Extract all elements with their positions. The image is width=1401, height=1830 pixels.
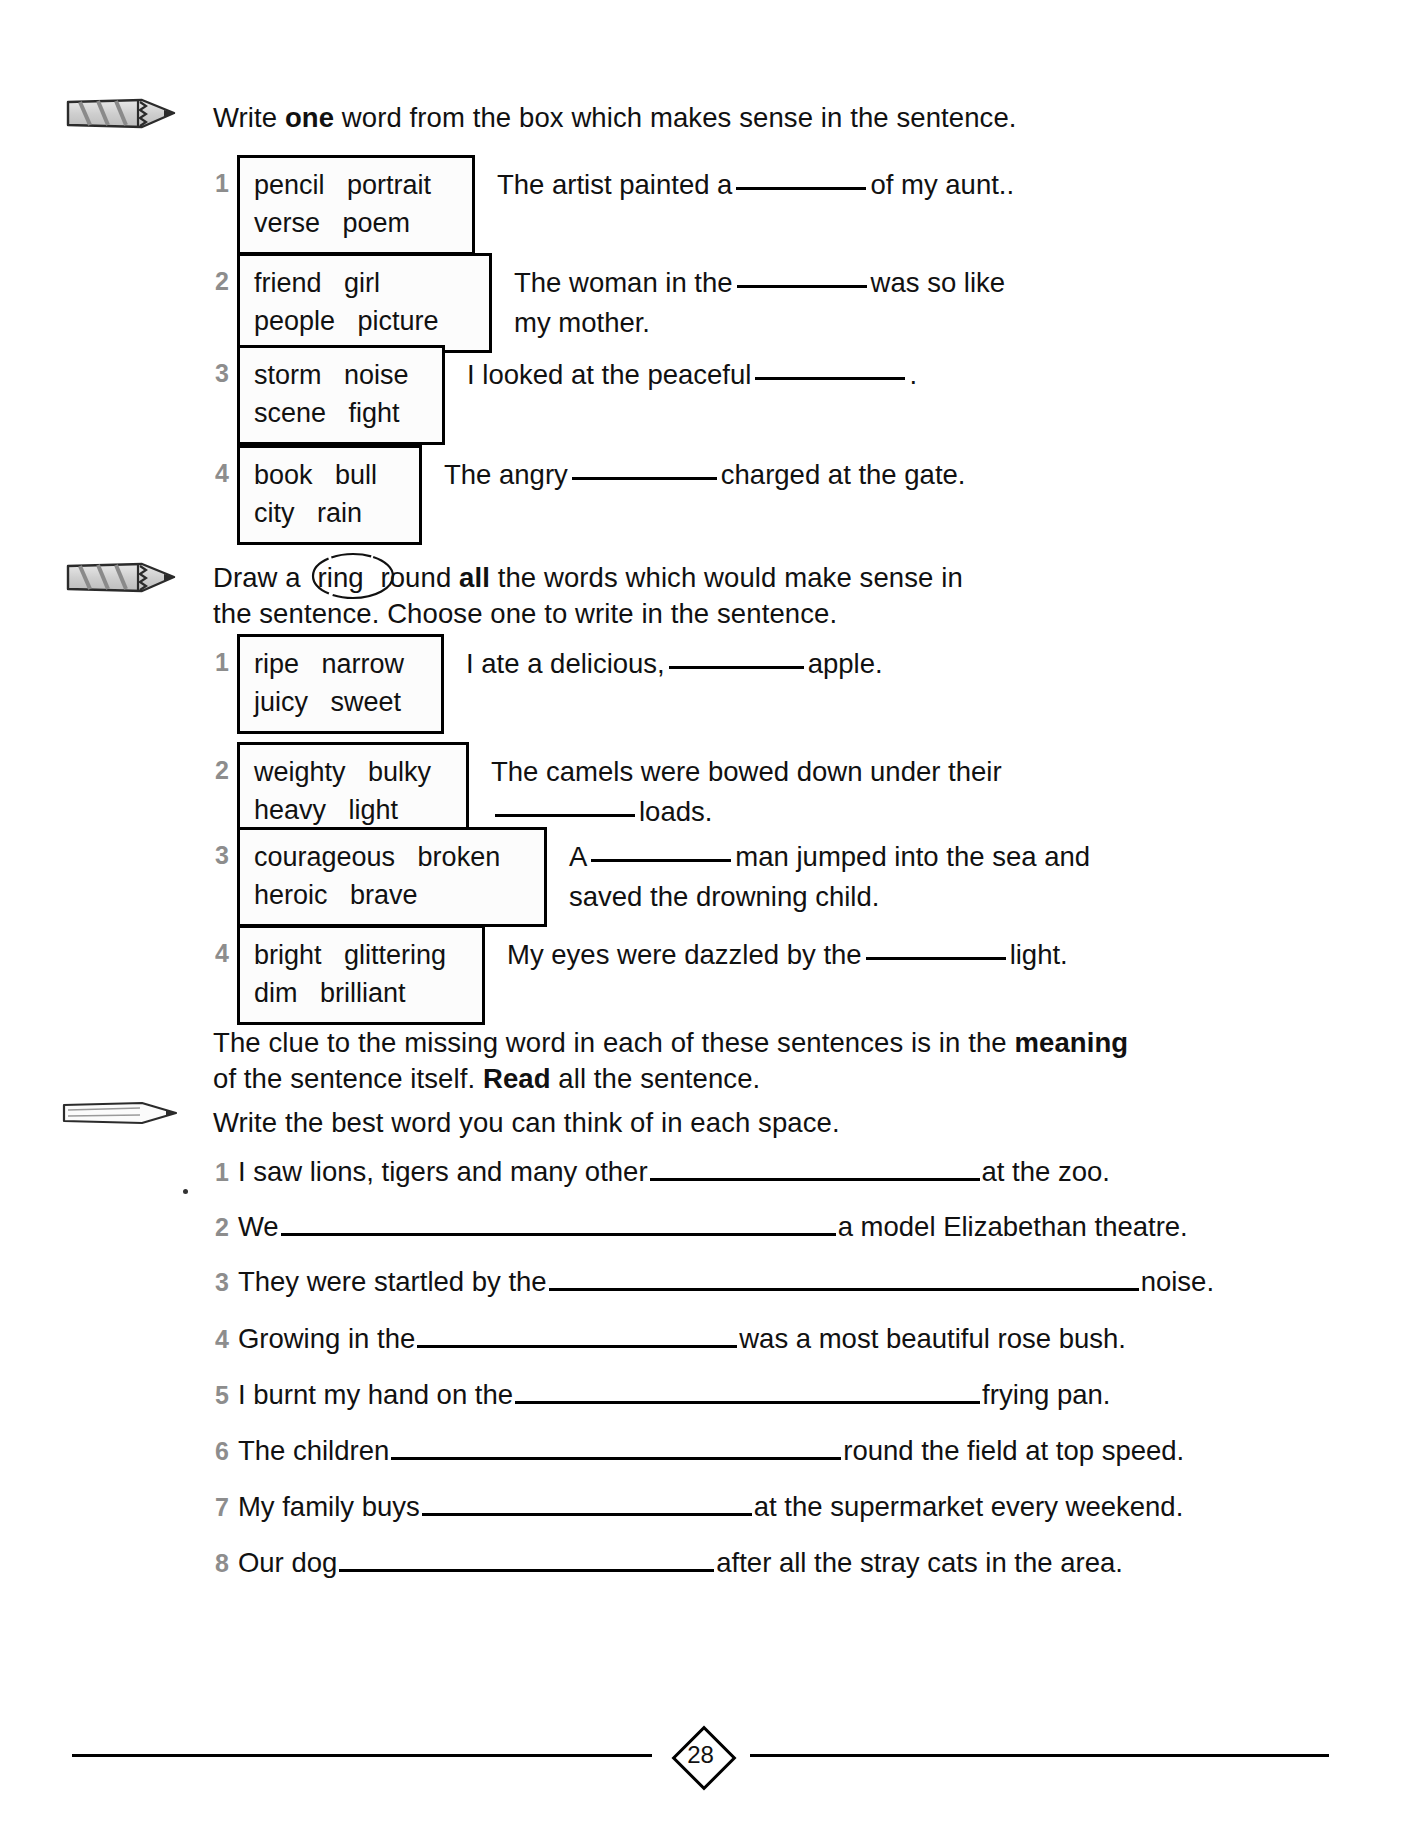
item-number: 3 (215, 1265, 229, 1299)
word-line: scene fight (254, 394, 428, 432)
item-number: 8 (215, 1546, 229, 1580)
sentence-with-blank: The angrycharged at the gate. (444, 445, 965, 495)
fill-in-row: 3They were startled by thenoise. (215, 1265, 1214, 1299)
sentence-text-before: The angry (444, 459, 568, 490)
fill-text-before: My family buys (238, 1490, 420, 1524)
fill-text-after: at the supermarket every weekend. (754, 1490, 1184, 1524)
word-line: bright glittering (254, 936, 468, 974)
fill-text-before: Our dog (238, 1546, 337, 1580)
section1-instruction: Write one word from the box which makes … (213, 100, 1113, 136)
instruction-text-2a: Draw a (213, 562, 308, 593)
sentence-with-blank: The woman in thewas so like my mother. (514, 253, 1005, 343)
word-choice-box[interactable]: book bull city rain (237, 445, 422, 545)
answer-blank[interactable] (755, 377, 905, 380)
answer-rule[interactable] (417, 1345, 737, 1348)
fill-in-row: 1I saw lions, tigers and many otherat th… (215, 1155, 1110, 1189)
exercise-row: 4 bright glittering dim brilliant My eye… (207, 925, 1068, 1025)
sentence-with-blank: I ate a delicious,apple. (466, 634, 883, 684)
fill-text-before: I burnt my hand on the (238, 1378, 513, 1412)
answer-blank[interactable] (572, 477, 717, 480)
sentence-text-before: I ate a delicious, (466, 648, 665, 679)
word-line: pencil portrait (254, 166, 458, 204)
ring-annotation: ring (308, 560, 372, 596)
answer-rule[interactable] (549, 1288, 1139, 1291)
word-choice-box[interactable]: friend girl people picture (237, 253, 492, 353)
item-number: 7 (215, 1490, 229, 1524)
word-line: weighty bulky (254, 753, 452, 791)
answer-rule[interactable] (391, 1457, 841, 1460)
item-number: 2 (207, 253, 229, 296)
meaning-note: The clue to the missing word in each of … (213, 1025, 1163, 1097)
answer-rule[interactable] (515, 1401, 980, 1404)
sentence-text-after: charged at the gate. (721, 459, 966, 490)
word-line: book bull (254, 456, 405, 494)
pencil-icon-3 (60, 1093, 180, 1137)
sentence-text-before: The artist painted a (497, 169, 732, 200)
section2-instruction: Draw a ring round all the words which wo… (213, 560, 1193, 632)
fill-text-after: was a most beautiful rose bush. (739, 1322, 1126, 1356)
instruction-text-1b: word from the box which makes sense in t… (334, 102, 1016, 133)
answer-blank[interactable] (737, 285, 867, 288)
instruction-bold-one: one (285, 102, 334, 133)
answer-rule[interactable] (281, 1233, 836, 1236)
fill-in-row: 6The childrenround the field at top spee… (215, 1434, 1184, 1468)
word-choice-box[interactable]: ripe narrow juicy sweet (237, 634, 444, 734)
answer-blank[interactable] (669, 666, 804, 669)
instruction-bold-all: all (459, 562, 490, 593)
word-line: city rain (254, 494, 405, 532)
word-line: ripe narrow (254, 645, 427, 683)
stray-mark (183, 1189, 188, 1194)
fill-text-after: a model Elizabethan theatre. (838, 1210, 1188, 1244)
answer-blank[interactable] (866, 957, 1006, 960)
footer-rule-left (72, 1754, 652, 1757)
exercise-row: 3 storm noise scene fight I looked at th… (207, 345, 917, 445)
answer-rule[interactable] (339, 1569, 714, 1572)
sentence-line-2: saved the drowning child. (569, 877, 1090, 917)
note-text-1: The clue to the missing word in each of … (213, 1027, 1014, 1058)
fill-in-row: 7My family buysat the supermarket every … (215, 1490, 1183, 1524)
instruction-text-2c: the words which would make sense in (490, 562, 963, 593)
sentence-text-before: I looked at the peaceful (467, 359, 751, 390)
sentence-text-after: . (909, 359, 917, 390)
fill-in-row: 8Our dogafter all the stray cats in the … (215, 1546, 1123, 1580)
sentence-text-after: of my aunt.. (870, 169, 1014, 200)
item-number: 4 (215, 1322, 229, 1356)
word-choice-box[interactable]: storm noise scene fight (237, 345, 445, 445)
item-number: 2 (207, 742, 229, 785)
fill-text-after: noise. (1141, 1265, 1214, 1299)
answer-rule[interactable] (650, 1178, 980, 1181)
sentence-with-blank: The camels were bowed down under their l… (491, 742, 1002, 832)
exercise-row: 4 book bull city rain The angrycharged a… (207, 445, 965, 545)
item-number: 5 (215, 1378, 229, 1412)
item-number: 1 (207, 634, 229, 677)
answer-rule[interactable] (422, 1513, 752, 1516)
word-choice-box[interactable]: bright glittering dim brilliant (237, 925, 485, 1025)
word-line: courageous broken (254, 838, 530, 876)
fill-text-before: We (238, 1210, 279, 1244)
sentence-text-after: apple. (808, 648, 883, 679)
note-text-3: all the sentence. (551, 1063, 761, 1094)
sentence-text-after: was so like (871, 267, 1006, 298)
page-footer: 28 (72, 1732, 1329, 1778)
sentence-text-after: man jumped into the sea and (735, 841, 1090, 872)
item-number: 6 (215, 1434, 229, 1468)
worksheet-page: Write one word from the box which makes … (0, 0, 1401, 1830)
page-number: 28 (670, 1724, 732, 1786)
answer-blank[interactable] (495, 814, 635, 817)
sentence-line-2: my mother. (514, 303, 1005, 343)
exercise-row: 1 pencil portrait verse poem The artist … (207, 155, 1014, 255)
sentence-text-before: The camels were bowed down under their (491, 756, 1002, 787)
fill-text-after: frying pan. (982, 1378, 1110, 1412)
note-bold-read: Read (483, 1063, 551, 1094)
note-line-2: of the sentence itself. Read all the sen… (213, 1061, 1163, 1097)
item-number: 3 (207, 345, 229, 388)
answer-blank[interactable] (591, 859, 731, 862)
sentence-text-before: My eyes were dazzled by the (507, 939, 862, 970)
fill-text-after: after all the stray cats in the area. (716, 1546, 1123, 1580)
fill-in-row: 2Wea model Elizabethan theatre. (215, 1210, 1188, 1244)
fill-text-before: The children (238, 1434, 389, 1468)
word-choice-box[interactable]: courageous broken heroic brave (237, 827, 547, 927)
word-choice-box[interactable]: pencil portrait verse poem (237, 155, 475, 255)
answer-blank[interactable] (736, 187, 866, 190)
pencil-icon-2 (64, 556, 184, 600)
